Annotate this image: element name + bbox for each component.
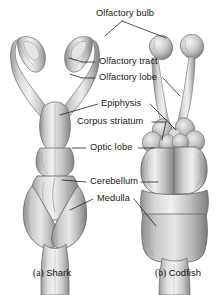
leader-olfactory-lobe-shark (70, 74, 82, 78)
label-medulla: Medulla (97, 193, 130, 203)
caption-codfish: (b) Codfish (155, 267, 201, 279)
label-epiphysis: Epiphysis (101, 98, 141, 108)
caption-codfish-name: Codfish (169, 267, 201, 278)
label-olfactory-tract: Olfactory tract (99, 56, 158, 66)
label-olfactory-lobe: Olfactory lobe (99, 72, 157, 82)
caption-shark-index: (a) (33, 268, 44, 278)
codfish-right-optic-lobe (174, 147, 207, 194)
brain-comparison-figure: Olfactory bulb Olfactory tract Olfactory… (0, 0, 219, 295)
leader-olfactory-bulb (105, 21, 166, 38)
shark-brain-illustration (10, 37, 99, 295)
codfish-medulla (142, 214, 208, 262)
label-olfactory-bulb: Olfactory bulb (96, 8, 154, 18)
codfish-right-olfactory-bulb (180, 34, 203, 58)
caption-codfish-index: (b) (155, 268, 166, 278)
label-cerebellum: Cerebellum (90, 176, 138, 186)
caption-shark-name: Shark (46, 267, 71, 278)
caption-shark: (a) Shark (33, 267, 71, 279)
label-corpus-striatum: Corpus striatum (77, 116, 143, 126)
codfish-left-optic-lobe (141, 148, 174, 195)
label-optic-lobe: Optic lobe (90, 142, 132, 152)
leader-olfactory-lobe-codfish (163, 78, 180, 96)
